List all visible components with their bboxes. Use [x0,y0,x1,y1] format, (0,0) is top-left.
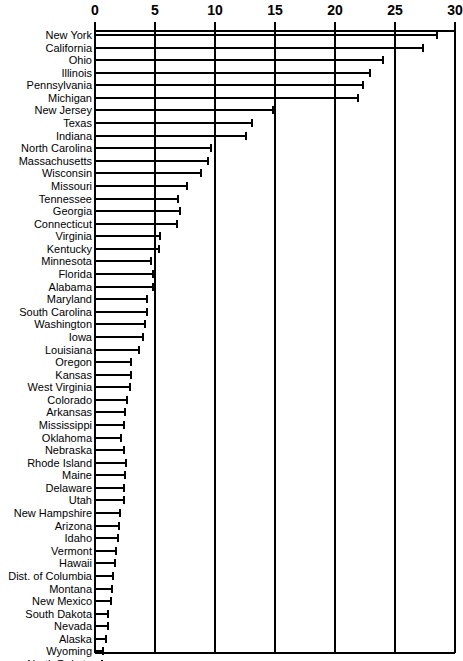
bar-end-cap [123,421,125,429]
bar [95,336,143,338]
category-label: Connecticut [34,218,92,230]
bar-rows: New YorkCaliforniaOhioIllinoisPennsylvan… [0,0,463,661]
bar-end-cap [142,333,144,341]
bar-end-cap [245,132,247,140]
bar [95,424,124,426]
bar-end-cap [126,396,128,404]
category-label: Indiana [56,130,92,142]
bar-end-cap [120,434,122,442]
bar-end-cap [186,182,188,190]
bar-end-cap [251,119,253,127]
category-label: Oregon [55,356,92,368]
category-label: Montana [49,583,92,595]
bar [95,562,115,564]
bar-end-cap [210,144,212,152]
bar-end-cap [129,383,131,391]
bar [95,411,125,413]
category-label: West Virginia [28,381,92,393]
bar [95,273,153,275]
chart-container: 051015202530 New YorkCaliforniaOhioIllin… [0,0,463,661]
bar [95,361,131,363]
category-label: Virginia [56,230,93,242]
bar [95,311,147,313]
bar-end-cap [362,81,364,89]
bar [95,386,130,388]
category-label: Maryland [47,293,92,305]
category-label: Hawaii [59,557,92,569]
category-label: South Carolina [19,306,92,318]
category-label: Mississippi [39,419,92,431]
category-label: Arkansas [46,406,92,418]
bar [95,474,125,476]
bar [95,286,153,288]
category-label: Oklahoma [42,432,92,444]
bar-end-cap [176,220,178,228]
category-label: Idaho [64,532,92,544]
bar-end-cap [123,446,125,454]
category-label: Delaware [46,482,92,494]
category-label: Arizona [55,520,92,532]
bar-end-cap [158,245,160,253]
category-label: Illinois [61,67,92,79]
category-label: Massachusetts [19,155,92,167]
bar [95,160,208,162]
bar [95,59,383,61]
category-label: Vermont [51,545,92,557]
bar-end-cap [144,320,146,328]
category-label: Maine [62,469,92,481]
category-label: Alaska [59,633,92,645]
category-label: Florida [58,268,92,280]
bar [95,122,252,124]
bar [95,298,147,300]
bar [95,34,437,36]
category-label: New York [46,29,92,41]
category-label: Louisiana [45,344,92,356]
bar [95,109,273,111]
category-label: Iowa [69,331,92,343]
bar-end-cap [130,358,132,366]
bar [95,525,119,527]
bar [95,72,370,74]
bar [95,223,177,225]
bar [95,97,358,99]
category-label: Washington [34,318,92,330]
bar-end-cap [150,257,152,265]
bar-end-cap [107,610,109,618]
bar [95,135,246,137]
category-label: Georgia [53,205,92,217]
category-label: Minnesota [41,255,92,267]
bar [95,600,111,602]
category-label: Kansas [55,369,92,381]
bar-end-cap [207,157,209,165]
bar-end-cap [123,484,125,492]
bar [95,487,124,489]
bar-end-cap [124,471,126,479]
category-label: Nebraska [45,444,92,456]
bar-end-cap [179,207,181,215]
category-label: Dist. of Columbia [8,570,92,582]
bar-end-cap [119,509,121,517]
bar [95,235,160,237]
bar-end-cap [422,44,424,52]
bar-end-cap [105,635,107,643]
category-label: Alabama [49,281,92,293]
bar-end-cap [123,496,125,504]
category-label: Nevada [54,620,92,632]
bar-end-cap [152,270,154,278]
bar-end-cap [130,371,132,379]
category-label: California [46,42,92,54]
bar [95,462,126,464]
bar-end-cap [112,572,114,580]
category-label: Missouri [51,180,92,192]
bar-end-cap [436,31,438,39]
category-label: Utah [69,494,92,506]
bar-end-cap [102,647,104,655]
category-label: Pennsylvania [27,79,92,91]
bar-end-cap [115,547,117,555]
bar-end-cap [200,169,202,177]
category-label: South Dakota [25,608,92,620]
bar [95,147,211,149]
category-label: Tennessee [39,193,92,205]
bar-end-cap [177,195,179,203]
category-label: New Hampshire [14,507,92,519]
